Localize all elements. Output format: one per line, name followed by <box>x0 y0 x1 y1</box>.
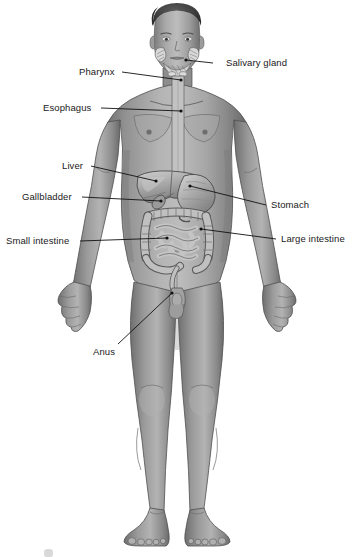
label-large-intestine: Large intestine <box>281 234 345 244</box>
diagram-canvas: Salivary gland Pharynx Esophagus Liver G… <box>0 0 355 557</box>
label-pharynx: Pharynx <box>79 67 115 77</box>
label-esophagus: Esophagus <box>43 103 91 113</box>
scan-artifact <box>44 549 53 557</box>
label-stomach: Stomach <box>271 200 309 210</box>
legs-group <box>124 282 230 546</box>
label-liver: Liver <box>62 161 83 171</box>
label-gallbladder: Gallbladder <box>22 192 72 202</box>
label-anus: Anus <box>93 347 115 357</box>
human-body-illustration <box>0 0 355 557</box>
esophagus-organ <box>172 76 184 186</box>
label-salivary-gland: Salivary gland <box>226 58 287 68</box>
label-small-intestine: Small intestine <box>6 236 69 246</box>
